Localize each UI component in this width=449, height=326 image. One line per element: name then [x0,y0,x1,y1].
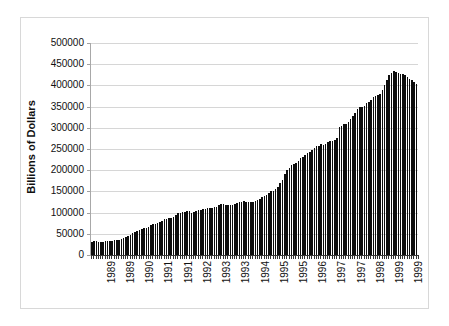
x-axis-tick-label: 1990 [144,261,156,305]
x-axis-tick-mark [318,255,319,259]
x-axis-tick-mark [352,255,353,259]
x-axis-tick-mark [354,255,355,259]
x-axis-tick-mark [186,255,187,259]
x-axis-tick-mark [345,255,346,259]
x-axis-tick-mark [339,255,340,259]
y-axis-tick-label: 200000 [24,165,84,175]
x-axis-tick-mark [264,255,265,259]
chart-figure: Billions of Dollars 05000010000015000020… [0,0,449,326]
x-axis-tick-labels: 1989198919901991199119921993199319941995… [91,261,418,305]
x-axis-tick-mark [416,255,417,259]
x-axis-tick-mark [391,255,392,259]
x-axis-tick-mark [377,255,378,259]
bar [416,84,418,255]
x-axis-tick-mark [152,255,153,259]
x-axis-tick-label: 1998 [375,261,387,305]
x-axis-tick-mark [304,255,305,259]
x-axis-tick-mark [134,255,135,259]
x-axis-tick-mark [216,255,217,259]
x-axis-tick-label: 1989 [125,261,137,305]
x-axis-tick-mark [407,255,408,259]
x-axis-tick-mark [270,255,271,259]
x-axis-ticks [91,255,418,260]
x-axis-tick-mark [375,255,376,259]
x-axis-tick-mark [289,255,290,259]
x-axis-tick-label: 1994 [260,261,272,305]
x-axis-tick-mark [332,255,333,259]
x-axis-tick-mark [320,255,321,259]
x-axis-tick-mark [111,255,112,259]
x-axis-tick-mark [357,255,358,259]
y-axis-tick-label: 100000 [24,208,84,218]
y-axis-tick-label: 400000 [24,80,84,90]
x-axis-tick-mark [218,255,219,259]
x-axis-tick-mark [214,255,215,259]
x-axis-tick-mark [373,255,374,259]
x-axis-tick-mark [146,255,147,259]
x-axis-tick-mark [359,255,360,259]
x-axis-tick-mark [364,255,365,259]
x-axis-tick-label: 1997 [336,261,348,305]
x-axis-tick-label: 1991 [183,261,195,305]
x-axis-tick-mark [130,255,131,259]
x-axis-tick-mark [164,255,165,259]
x-axis-tick-mark [93,255,94,259]
x-axis-tick-mark [261,255,262,259]
x-axis-tick-mark [316,255,317,259]
x-axis-tick-mark [225,255,226,259]
x-axis-tick-mark [195,255,196,259]
x-axis-tick-mark [118,255,119,259]
x-axis-tick-mark [293,255,294,259]
bar-series [91,43,418,255]
x-axis-tick-mark [382,255,383,259]
x-axis-tick-mark [409,255,410,259]
x-axis-tick-mark [123,255,124,259]
x-axis-tick-mark [211,255,212,259]
x-axis-tick-mark [132,255,133,259]
x-axis-tick-mark [325,255,326,259]
x-axis-tick-mark [386,255,387,259]
x-axis-tick-mark [155,255,156,259]
x-axis-tick-mark [282,255,283,259]
x-axis-tick-mark [175,255,176,259]
x-axis-tick-mark [116,255,117,259]
x-axis-tick-mark [236,255,237,259]
x-axis-tick-mark [180,255,181,259]
x-axis-tick-mark [370,255,371,259]
x-axis-tick-mark [255,255,256,259]
x-axis-tick-mark [107,255,108,259]
x-axis-tick-label: 1989 [106,261,118,305]
x-axis-tick-mark [234,255,235,259]
x-axis-tick-mark [245,255,246,259]
x-axis-tick-mark [257,255,258,259]
x-axis-tick-mark [161,255,162,259]
x-axis-tick-mark [150,255,151,259]
x-axis-tick-mark [252,255,253,259]
x-axis-tick-mark [300,255,301,259]
x-axis-tick-mark [157,255,158,259]
x-axis-tick-mark [241,255,242,259]
x-axis-tick-label: 1999 [394,261,406,305]
x-axis-tick-mark [189,255,190,259]
y-axis-tick-label: 300000 [24,123,84,133]
x-axis-tick-mark [136,255,137,259]
x-axis-tick-mark [286,255,287,259]
x-axis-tick-mark [127,255,128,259]
x-axis-tick-mark [379,255,380,259]
x-axis-tick-mark [400,255,401,259]
x-axis-tick-mark [139,255,140,259]
x-axis-tick-label: 1992 [202,261,214,305]
x-axis-tick-mark [184,255,185,259]
y-axis-tick-label: 500000 [24,38,84,48]
x-axis-tick-label: 1993 [240,261,252,305]
x-axis-tick-mark [239,255,240,259]
x-axis-tick-mark [220,255,221,259]
x-axis-tick-mark [105,255,106,259]
x-axis-tick-mark [309,255,310,259]
x-axis-tick-mark [393,255,394,259]
x-axis-tick-mark [334,255,335,259]
x-axis-tick-mark [307,255,308,259]
x-axis-tick-label: 1991 [163,261,175,305]
y-axis-tick-label: 450000 [24,59,84,69]
x-axis-tick-mark [109,255,110,259]
